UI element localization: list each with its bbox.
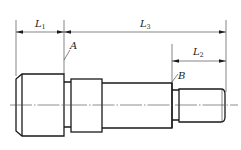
shaft-main-body xyxy=(102,83,172,128)
reference-b: B xyxy=(172,70,185,82)
reference-label-b: B xyxy=(177,70,185,81)
reference-label-a: A xyxy=(69,40,77,51)
dimension-l1: L 1 xyxy=(16,18,64,34)
dimension-l3: L 3 xyxy=(64,18,226,34)
dimension-subscript-l2: 2 xyxy=(200,51,204,59)
dimension-l2: L 2 xyxy=(172,46,226,63)
shaft-neck xyxy=(64,82,71,127)
dimension-subscript-l3: 3 xyxy=(147,23,151,31)
dimension-subscript-l1: 1 xyxy=(42,23,46,31)
shaft-collar xyxy=(71,79,102,132)
shaft-drawing: L 1 L 3 L 2 A B xyxy=(0,0,241,150)
shaft-thread-end xyxy=(179,89,225,122)
reference-a: A xyxy=(64,40,77,60)
